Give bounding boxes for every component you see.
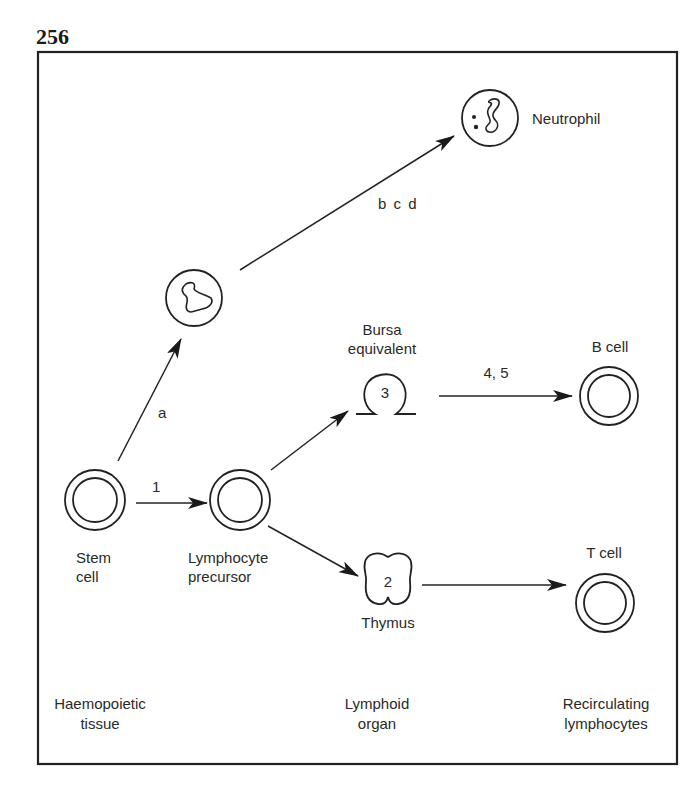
edge-label-1: 1	[152, 478, 160, 495]
neutrophil-granule-icon	[472, 115, 476, 119]
caption-middle-line2: organ	[358, 715, 396, 732]
neutrophil-nucleus-icon	[486, 99, 499, 132]
precursor-inner-icon	[218, 478, 262, 522]
bursa-number: 3	[381, 384, 389, 401]
caption-left-line1: Haemopoietic	[54, 695, 146, 712]
bursa-label-line1: Bursa	[362, 321, 402, 338]
stem-cell-outer-icon	[65, 470, 125, 530]
lymphocyte-development-diagram: Neutrophil Stem cell Lymphocyte precurso…	[0, 0, 688, 795]
arrow-myeloid-to-neutrophil: b c d	[240, 136, 454, 270]
caption-middle-line1: Lymphoid	[345, 695, 409, 712]
caption-right-line1: Recirculating	[563, 695, 650, 712]
b-cell-label: B cell	[592, 338, 629, 355]
precursor-label-line1: Lymphocyte	[188, 549, 268, 566]
myeloid-cell-icon	[166, 270, 222, 326]
edge-label-a: a	[158, 404, 167, 421]
stem-cell-label-line2: cell	[76, 568, 99, 585]
bursa-equivalent-node: Bursa equivalent 3	[348, 321, 417, 414]
stem-cell-node: Stem cell	[65, 470, 125, 585]
precursor-outer-icon	[210, 470, 270, 530]
b-cell-node: B cell	[580, 338, 638, 425]
neutrophil-label: Neutrophil	[532, 110, 600, 127]
thymus-number: 2	[384, 573, 392, 590]
arrow-precursor-to-thymus	[268, 526, 358, 576]
caption-right-line2: lymphocytes	[564, 715, 647, 732]
figure-frame	[38, 52, 677, 764]
arrow-stem-to-precursor: 1	[136, 478, 207, 503]
t-cell-node: T cell	[576, 544, 634, 632]
neutrophil-granule-icon	[474, 125, 478, 129]
stem-cell-inner-icon	[73, 478, 117, 522]
myeloid-nucleus-icon	[182, 283, 212, 312]
stem-cell-label-line1: Stem	[76, 549, 111, 566]
thymus-label: Thymus	[361, 614, 414, 631]
arrow-bursa-to-bcell: 4, 5	[439, 364, 572, 396]
precursor-label-line2: precursor	[188, 568, 251, 585]
b-cell-inner-icon	[588, 375, 630, 417]
thymus-node: 2 Thymus	[361, 553, 414, 631]
edge-label-bcd: b c d	[378, 195, 418, 212]
lymphocyte-precursor-node: Lymphocyte precursor	[188, 470, 270, 585]
bursa-label-line2: equivalent	[348, 340, 417, 357]
column-caption-right: Recirculating lymphocytes	[563, 695, 650, 732]
column-caption-left: Haemopoietic tissue	[54, 695, 146, 732]
arrow-precursor-to-bursa	[271, 411, 348, 470]
column-caption-middle: Lymphoid organ	[345, 695, 409, 732]
neutrophil-node: Neutrophil	[462, 90, 600, 146]
arrow-stem-to-myeloid: a	[118, 339, 181, 461]
caption-left-line2: tissue	[80, 715, 119, 732]
myeloid-intermediate-node	[166, 270, 222, 326]
edge-label-4-5: 4, 5	[483, 364, 508, 381]
t-cell-inner-icon	[584, 582, 626, 624]
t-cell-label: T cell	[586, 544, 622, 561]
